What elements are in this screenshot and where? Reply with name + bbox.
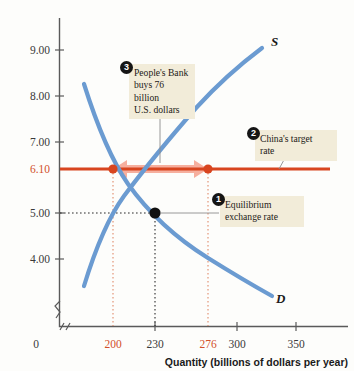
annotation-badge-3: 3 [120,61,133,74]
y-tick-label-400: 4.00 [30,253,50,265]
y-tick-label-900: 9.00 [30,44,50,56]
annotation-badge-2: 2 [247,127,260,140]
x-axis-title: Quantity (billions of dollars per year) [165,356,348,368]
supply-curve-label: S [271,34,278,49]
x-tick-label-276: 276 [199,338,217,350]
y-tick-label-500: 5.00 [30,207,50,219]
demand-curve-label: D [275,291,286,306]
x-origin-label: 0 [33,338,39,350]
y-tick-label-610: 6.10 [30,163,50,175]
exchange-rate-chart-figure: 9.00 8.00 7.00 6.10 5.00 4.00 0 200 230 … [0,0,354,371]
x-tick-label-200: 200 [104,338,122,350]
axes-group [55,18,348,330]
quantity-demanded-point [108,164,117,173]
quantity-supplied-point [203,164,212,173]
x-tick-label-300: 300 [228,338,246,350]
annotation-badge-1: 1 [212,193,225,206]
x-tick-label-350: 350 [287,338,305,350]
x-tick-label-230: 230 [146,338,164,350]
y-tick-label-700: 7.00 [30,136,50,148]
annotation-callout-1: Equilibrium exchange rate [220,196,304,227]
equilibrium-point [149,207,160,218]
y-tick-label-800: 8.00 [30,90,50,102]
annotation-callout-3: People's Bank buys 76 billion U.S. dolla… [129,64,195,119]
chart-canvas: 9.00 8.00 7.00 6.10 5.00 4.00 0 200 230 … [0,0,354,371]
annotation-callout-2: China's target rate [255,130,337,161]
